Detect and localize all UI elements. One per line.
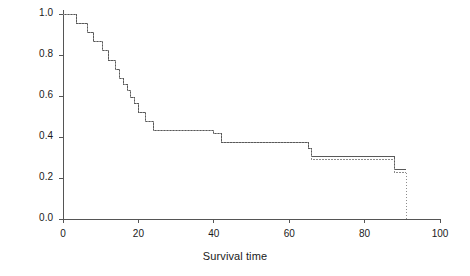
survival-plot-figure: Estimated survivor function Survival tim… [0, 0, 470, 276]
plot-canvas [0, 0, 470, 276]
survivor-curve-solid [63, 14, 406, 170]
y-tick-marks [59, 14, 63, 219]
x-tick-marks [63, 219, 440, 223]
axes-group [59, 10, 440, 223]
survivor-curves-group [63, 14, 406, 219]
survivor-curve-dotted [63, 14, 406, 173]
